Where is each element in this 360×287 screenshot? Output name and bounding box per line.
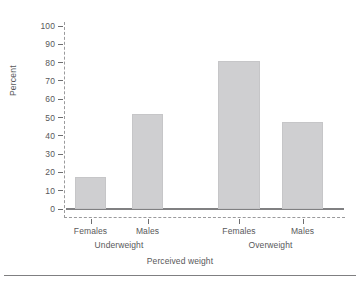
x-axis-group-label: Underweight (95, 240, 144, 250)
bar (75, 177, 106, 209)
y-axis-tick-label: 90 (45, 38, 55, 50)
bar (218, 61, 260, 209)
y-axis-tick-mark (58, 44, 63, 45)
x-axis-tick-label: Males (291, 226, 314, 236)
y-axis-tick-mark (58, 99, 63, 100)
y-axis-tick: 70 (45, 75, 66, 87)
x-axis-dashed-line (64, 217, 345, 218)
x-axis-title: Perceived weight (147, 256, 213, 266)
x-axis-tick-label: Males (136, 226, 159, 236)
y-axis-tick-label: 80 (45, 57, 55, 69)
y-axis-tick-label: 0 (50, 203, 55, 215)
y-axis-tick-label: 20 (45, 166, 55, 178)
y-axis-tick-mark (58, 62, 63, 63)
bar (282, 122, 323, 209)
bar-chart-figure: Percent 1009080706050403020100 Perceived… (0, 0, 360, 287)
y-axis-tick-label: 10 (45, 185, 55, 197)
y-axis-ticks: 1009080706050403020100 (0, 0, 66, 287)
y-axis-tick: 30 (45, 148, 66, 160)
y-axis-tick: 60 (45, 93, 66, 105)
y-axis-tick-label: 40 (45, 130, 55, 142)
y-axis-tick-label: 70 (45, 75, 55, 87)
y-axis-line (64, 22, 65, 218)
x-axis-tick-label: Females (222, 226, 255, 236)
y-axis-tick-label: 50 (45, 112, 55, 124)
y-axis-tick-label: 100 (41, 20, 55, 32)
y-axis-tick-mark (58, 135, 63, 136)
bar (132, 114, 163, 209)
y-axis-tick-label: 30 (45, 148, 55, 160)
x-axis-tick-mark (303, 219, 304, 224)
y-axis-tick-mark (58, 117, 63, 118)
x-axis-group-label: Overweight (249, 240, 293, 250)
y-axis-tick: 20 (45, 166, 66, 178)
y-axis-tick-mark (58, 80, 63, 81)
y-axis-tick: 80 (45, 57, 66, 69)
footer-divider (4, 275, 356, 276)
plot-area (66, 26, 344, 209)
x-axis-tick-mark (91, 219, 92, 224)
y-axis-tick: 40 (45, 130, 66, 142)
y-axis-tick: 10 (45, 185, 66, 197)
y-axis-tick: 50 (45, 112, 66, 124)
y-axis-tick: 90 (45, 38, 66, 50)
y-axis-tick: 100 (41, 20, 66, 32)
y-axis-tick-mark (58, 190, 63, 191)
y-axis-tick-mark (58, 154, 63, 155)
y-axis-tick-mark (58, 26, 63, 27)
y-axis-tick-mark (58, 172, 63, 173)
x-axis-tick-mark (148, 219, 149, 224)
x-axis-tick-label: Females (74, 226, 107, 236)
y-axis-tick-label: 60 (45, 93, 55, 105)
x-axis-tick-mark (239, 219, 240, 224)
y-axis-tick-mark (58, 209, 63, 210)
